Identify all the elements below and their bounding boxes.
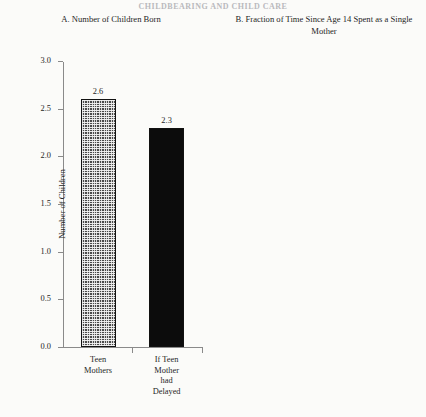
- x-category-line: Delayed: [132, 387, 202, 398]
- bar-a-0: 2.6: [81, 99, 116, 347]
- y-tick-label-a: 3.0: [41, 55, 51, 66]
- figure-root: CHILDBEARING AND CHILD CARE A. Number of…: [0, 0, 426, 417]
- x-category-line: Teen: [63, 355, 133, 366]
- y-tick-a: 2.0: [58, 156, 63, 157]
- x-tick-a: [132, 348, 133, 353]
- bar-value-label-a-0: 2.6: [93, 87, 103, 97]
- y-tick-label-a: 1.0: [41, 246, 51, 257]
- x-category-line: Mother: [132, 366, 202, 377]
- y-tick-label-a: 0.0: [41, 341, 51, 352]
- y-tick-label-a: 1.5: [41, 198, 51, 209]
- bar-value-label-a-1: 2.3: [161, 116, 171, 126]
- y-tick-a: 0.0: [58, 347, 63, 348]
- chart-title-b: B. Fraction of Time Since Age 14 Spent a…: [222, 14, 426, 37]
- y-tick-a: 3.0: [58, 61, 63, 62]
- bar-a-1: 2.3: [149, 128, 184, 347]
- y-tick-label-a: 0.5: [41, 293, 51, 304]
- y-tick-a: 1.0: [58, 252, 63, 253]
- x-category-label-a-1: If TeenMotherhadDelayed: [132, 355, 202, 397]
- chart-title-a: A. Number of Children Born: [0, 14, 222, 26]
- y-tick-a: 1.5: [58, 204, 63, 205]
- y-tick-a: 0.5: [58, 299, 63, 300]
- plot-area-a: Number of Children 3.02.52.01.51.00.50.0…: [63, 62, 203, 348]
- y-tick-label-a: 2.5: [41, 103, 51, 114]
- x-category-label-a-0: TeenMothers: [63, 355, 133, 376]
- x-category-line: had: [132, 376, 202, 387]
- chart-panel-a: A. Number of Children Born Number of Chi…: [0, 0, 222, 417]
- x-axis-line-a: [63, 347, 203, 348]
- chart-panel-b: B. Fraction of Time Since Age 14 Spent a…: [222, 0, 426, 417]
- y-tick-label-a: 2.0: [41, 150, 51, 161]
- y-tick-a: 2.5: [58, 109, 63, 110]
- x-category-line: Mothers: [63, 366, 133, 377]
- x-tick-a: [202, 348, 203, 353]
- x-category-line: If Teen: [132, 355, 202, 366]
